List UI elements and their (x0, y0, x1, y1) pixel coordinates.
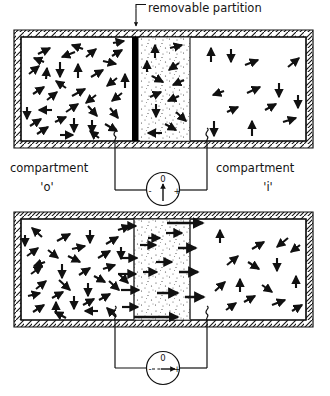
voltmeter-top-plus-label: + (173, 186, 180, 196)
compartment-left-id: 'o' (40, 180, 53, 194)
diffusion-potential-diagram: removable partition (0, 0, 330, 396)
removable-partition (132, 37, 139, 141)
compartment-right-label: compartment (216, 161, 295, 175)
particles-left-bottom (25, 226, 130, 318)
partition-annotation-label: removable partition (148, 1, 262, 15)
voltmeter-top-minus-label: - (148, 186, 151, 196)
electrode-right-top (206, 128, 208, 142)
particles-left-top (27, 41, 125, 138)
partition-annotation: removable partition (136, 1, 262, 26)
electrode-right-bottom (206, 306, 208, 320)
voltmeter-bottom[interactable]: 0 - + (147, 352, 181, 385)
compartment-left-label: compartment (10, 161, 89, 175)
voltmeter-bottom-minus-label: - (148, 364, 151, 374)
particles-right-bottom (215, 230, 302, 311)
voltmeter-top[interactable]: 0 - + (147, 173, 181, 206)
panel-bottom: 0 - + (14, 212, 313, 385)
electrode-left-bottom (114, 306, 116, 320)
panel-top: 0 - + compartment 'o' compartment 'i' (10, 30, 313, 206)
figure-root: removable partition (0, 0, 330, 396)
compartment-right-id: 'i' (263, 180, 273, 194)
voltmeter-top-zero-label: 0 (160, 174, 165, 184)
particles-right-top (211, 48, 299, 136)
stipple-region-bottom (134, 220, 190, 320)
voltmeter-bottom-zero-label: 0 (160, 353, 165, 363)
